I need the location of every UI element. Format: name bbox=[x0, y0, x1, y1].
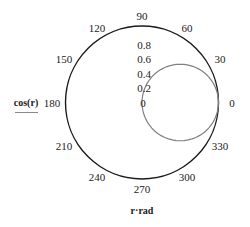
angle-tick-240: 240 bbox=[89, 172, 106, 183]
radial-tick-0.4: 0.4 bbox=[137, 68, 151, 79]
angle-tick-270: 270 bbox=[134, 184, 151, 195]
angle-tick-30: 30 bbox=[214, 54, 225, 65]
radial-tick-0.8: 0.8 bbox=[137, 39, 151, 50]
angle-tick-210: 210 bbox=[56, 140, 73, 151]
cos-series-line bbox=[142, 64, 219, 141]
angle-tick-330: 330 bbox=[212, 140, 229, 151]
radial-tick-0: 0 bbox=[140, 97, 146, 108]
y-axis-label: cos(r) bbox=[14, 97, 38, 108]
legend-line-sample bbox=[15, 112, 38, 113]
angle-tick-90: 90 bbox=[137, 11, 148, 22]
radial-tick-0.2: 0.2 bbox=[137, 83, 151, 94]
angle-tick-300: 300 bbox=[179, 172, 196, 183]
angle-tick-180: 180 bbox=[44, 97, 61, 108]
angle-tick-120: 120 bbox=[89, 22, 106, 33]
angle-tick-60: 60 bbox=[182, 22, 193, 33]
radial-tick-0.6: 0.6 bbox=[137, 54, 151, 65]
polar-plot bbox=[0, 0, 250, 227]
angle-tick-150: 150 bbox=[56, 54, 73, 65]
x-axis-label: r·rad bbox=[131, 205, 154, 216]
angle-tick-0: 0 bbox=[229, 97, 235, 108]
